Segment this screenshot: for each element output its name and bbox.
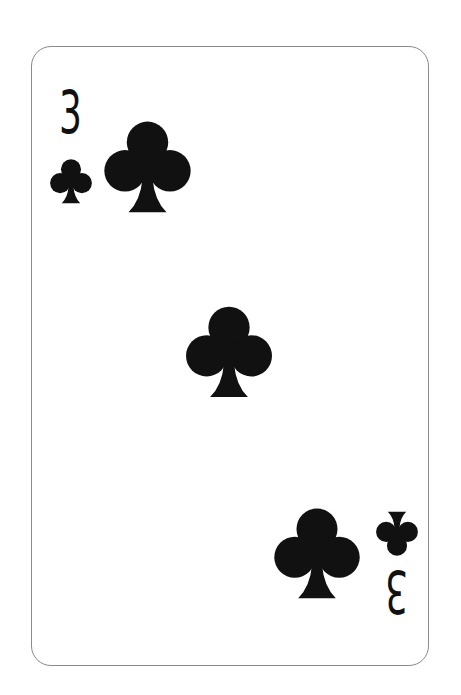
club-icon: [104, 119, 191, 214]
rank-top-left: 3: [59, 84, 82, 142]
club-icon: [49, 158, 93, 204]
club-icon: [186, 304, 272, 399]
playing-card[interactable]: 3 3: [31, 46, 429, 666]
club-icon: [274, 506, 360, 600]
club-icon: [375, 511, 419, 557]
rank-bottom-right: 3: [385, 562, 408, 620]
